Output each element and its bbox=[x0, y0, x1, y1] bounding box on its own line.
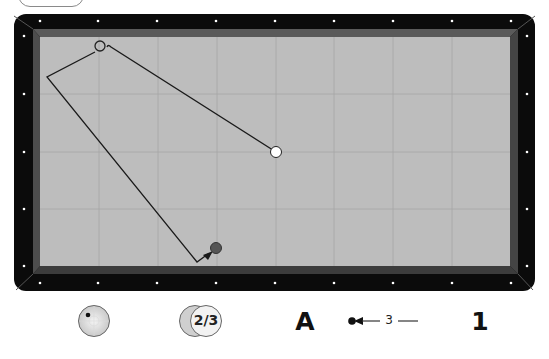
stroke-value: 3 bbox=[382, 313, 396, 327]
shot-number[interactable]: 1 bbox=[465, 306, 495, 336]
cue-ball-spin-icon bbox=[77, 304, 111, 338]
shot-type-selector[interactable]: A bbox=[290, 306, 320, 336]
shot-letter: A bbox=[295, 307, 314, 336]
ball-thickness-selector[interactable]: 2/3 bbox=[165, 304, 245, 338]
thickness-label: 2/3 bbox=[192, 312, 220, 328]
cushion-left bbox=[33, 29, 40, 274]
stroke-strength-selector[interactable]: 3 bbox=[342, 306, 457, 336]
cushion-bottom bbox=[33, 266, 518, 274]
cue-ball-white[interactable] bbox=[271, 147, 282, 158]
cushion-top bbox=[33, 29, 518, 37]
spin-selector[interactable] bbox=[77, 304, 111, 338]
billiard-table bbox=[0, 0, 549, 300]
cushion-right bbox=[510, 29, 518, 274]
object-ball-red[interactable] bbox=[211, 243, 222, 254]
shot-number-label: 1 bbox=[471, 307, 488, 336]
shot-controls: 2/3 A 3 1 bbox=[0, 300, 549, 355]
cue-stroke-icon bbox=[342, 306, 457, 336]
